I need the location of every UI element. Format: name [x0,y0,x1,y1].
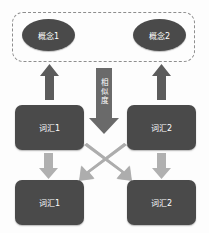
diagram-canvas: 概念1 概念2 词汇1 词汇2 词汇1 词汇2 相 似 度 [0,0,209,233]
concept-node-2-label: 概念2 [149,30,170,41]
word-node-top-right[interactable]: 词汇2 [127,105,196,150]
concept-node-1-label: 概念1 [38,30,59,41]
word-node-top-right-label: 词汇2 [151,122,172,133]
concept-node-1[interactable]: 概念1 [22,19,75,51]
concept-node-2[interactable]: 概念2 [133,19,186,51]
arrow-word2-down-icon [152,153,171,179]
similarity-arrow-icon [89,68,119,134]
word-node-top-left[interactable]: 词汇1 [15,105,84,150]
arrow-word1-to-concept1-icon [40,64,59,100]
word-node-bottom-right-label: 词汇2 [151,197,172,208]
word-node-bottom-left[interactable]: 词汇1 [15,180,84,225]
arrow-word2-to-concept2-icon [152,64,171,100]
word-node-top-left-label: 词汇1 [39,122,60,133]
arrow-word1-down-icon [39,153,58,179]
word-node-bottom-left-label: 词汇1 [39,197,60,208]
word-node-bottom-right[interactable]: 词汇2 [127,180,196,225]
